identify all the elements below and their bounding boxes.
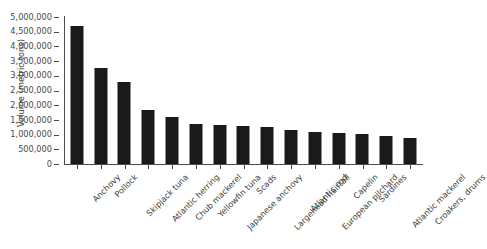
y-tick-mark: [54, 164, 59, 165]
y-tick-mark: [54, 46, 59, 47]
x-tick-mark: [125, 165, 126, 169]
bar: [237, 126, 250, 164]
x-tick-mark: [291, 165, 292, 169]
bar-slot: [208, 17, 232, 164]
y-tick-mark: [54, 61, 59, 62]
bar-slot: [136, 17, 160, 164]
bar: [404, 138, 417, 164]
bar: [380, 136, 393, 164]
y-tick-label: 3,500,000: [10, 56, 52, 66]
bar: [189, 124, 202, 164]
bar-slot: [351, 17, 375, 164]
y-tick-label: 2,500,000: [10, 85, 52, 95]
y-tick-label: 4,000,000: [10, 41, 52, 51]
bar-slot: [113, 17, 137, 164]
y-tick-label: 4,500,000: [10, 26, 52, 36]
x-tick-label: Atlantic cod: [308, 172, 349, 213]
bar: [356, 134, 369, 164]
bar: [142, 110, 155, 164]
bar-slot: [65, 17, 89, 164]
bar-slot: [279, 17, 303, 164]
bar: [213, 125, 226, 164]
y-tick-label: 1,000,000: [10, 129, 52, 139]
y-tick-mark: [54, 105, 59, 106]
plot-area: [65, 17, 422, 164]
bar: [118, 82, 131, 164]
y-tick-label: 1,500,000: [10, 115, 52, 125]
x-tick-mark: [267, 165, 268, 169]
bar-slot: [255, 17, 279, 164]
bar: [285, 130, 298, 164]
bar-slot: [184, 17, 208, 164]
bar-slot: [89, 17, 113, 164]
x-tick-mark: [220, 165, 221, 169]
x-tick-mark: [315, 165, 316, 169]
y-tick-mark: [54, 91, 59, 92]
x-tick-mark: [77, 165, 78, 169]
x-tick-mark: [148, 165, 149, 169]
x-tick-mark: [172, 165, 173, 169]
bar: [70, 26, 83, 164]
bar-slot: [232, 17, 256, 164]
x-tick-mark: [410, 165, 411, 169]
bar: [332, 133, 345, 164]
bar: [166, 117, 179, 164]
y-tick-mark: [54, 120, 59, 121]
y-tick-mark: [54, 149, 59, 150]
y-tick-label: 500,000: [18, 144, 52, 154]
y-tick-mark: [54, 76, 59, 77]
y-tick-mark: [54, 32, 59, 33]
x-tick-mark: [101, 165, 102, 169]
y-tick-mark: [54, 135, 59, 136]
y-tick-label: 5,000,000: [10, 12, 52, 22]
bar-slot: [327, 17, 351, 164]
x-tick-mark: [339, 165, 340, 169]
x-tick-mark: [196, 165, 197, 169]
y-tick-label: 3,000,000: [10, 70, 52, 80]
x-tick-mark: [386, 165, 387, 169]
y-tick-mark: [54, 17, 59, 18]
bar: [94, 68, 107, 164]
bar-slot: [160, 17, 184, 164]
bar: [308, 132, 321, 164]
bar: [261, 127, 274, 164]
x-tick-mark: [363, 165, 364, 169]
bar-slot: [398, 17, 422, 164]
x-tick-label-text: Atlantic cod: [308, 172, 349, 213]
bar-slot: [303, 17, 327, 164]
x-tick-mark: [244, 165, 245, 169]
y-tick-label: 0: [47, 159, 52, 169]
bar-slot: [374, 17, 398, 164]
y-tick-label: 2,000,000: [10, 100, 52, 110]
